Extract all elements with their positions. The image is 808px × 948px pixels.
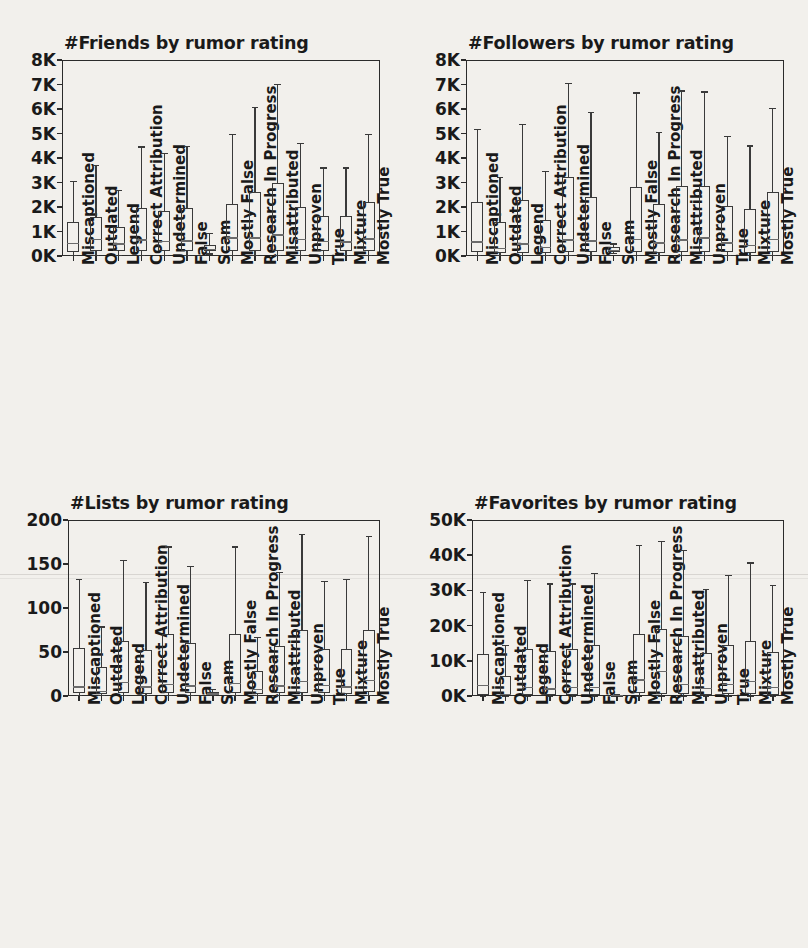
- y-tick-label: 50K: [410, 510, 466, 530]
- figure-grid: #Friends by rumor rating0K1K2K3K4K5K6K7K…: [0, 0, 808, 948]
- x-tick-mark: [505, 696, 506, 701]
- whisker-cap-upper: [770, 585, 777, 586]
- box-favorites-7: [633, 634, 645, 692]
- whisker-upper: [594, 573, 595, 645]
- whisker-upper: [483, 592, 484, 654]
- y-tick-label: 30K: [410, 580, 466, 600]
- x-tick-mark: [482, 696, 483, 701]
- whisker-upper: [772, 585, 773, 652]
- x-tick-mark: [683, 696, 684, 701]
- x-tick-mark: [772, 696, 773, 701]
- y-tick-mark: [467, 695, 472, 697]
- whisker-cap-upper: [524, 580, 531, 581]
- whisker-upper: [639, 545, 640, 635]
- whisker-cap-upper: [725, 575, 732, 576]
- whisker-cap-upper: [703, 589, 710, 590]
- whisker-cap-upper: [480, 592, 487, 593]
- median-line: [745, 681, 757, 682]
- box-favorites-12: [745, 641, 757, 694]
- whisker-upper: [705, 589, 706, 653]
- whisker-upper: [728, 575, 729, 646]
- x-tick-label-13: Mostly True: [779, 607, 797, 705]
- x-tick-mark: [594, 696, 595, 701]
- median-line: [522, 687, 534, 688]
- median-line: [700, 688, 712, 689]
- whisker-cap-upper: [747, 562, 754, 563]
- box-favorites-11: [722, 645, 734, 694]
- y-tick-mark: [467, 554, 472, 556]
- whisker-cap-upper: [569, 583, 576, 584]
- whisker-cap-upper: [636, 545, 643, 546]
- y-tick-mark: [467, 590, 472, 592]
- whisker-upper: [572, 583, 573, 649]
- chart-panel-favorites: #Favorites by rumor rating0K10K20K30K40K…: [0, 0, 808, 948]
- median-line: [722, 684, 734, 685]
- x-tick-mark: [616, 696, 617, 701]
- whisker-upper: [505, 645, 506, 676]
- whisker-upper: [527, 580, 528, 649]
- x-tick-mark: [705, 696, 706, 701]
- whisker-upper: [683, 550, 684, 636]
- x-tick-mark: [750, 696, 751, 701]
- whisker-cap-upper: [547, 583, 554, 584]
- whisker-cap-upper: [680, 550, 687, 551]
- whisker-upper: [750, 562, 751, 641]
- whisker-upper: [661, 541, 662, 629]
- y-tick-mark: [467, 625, 472, 627]
- chart-title-favorites: #Favorites by rumor rating: [474, 493, 737, 513]
- median-line: [656, 671, 668, 672]
- median-line: [767, 687, 779, 688]
- median-line: [477, 685, 489, 686]
- box-favorites-9: [678, 636, 690, 694]
- x-tick-mark: [572, 696, 573, 701]
- whisker-upper: [549, 583, 550, 651]
- y-tick-label: 10K: [410, 651, 466, 671]
- whisker-cap-upper: [658, 541, 665, 542]
- y-tick-mark: [467, 660, 472, 662]
- whisker-cap-upper: [502, 645, 509, 646]
- median-line: [544, 688, 556, 689]
- box-favorites-8: [656, 629, 668, 693]
- median-line: [678, 684, 690, 685]
- box-favorites-0: [477, 654, 489, 695]
- y-tick-label: 0K: [410, 686, 466, 706]
- median-line: [566, 687, 578, 688]
- median-line: [589, 687, 601, 688]
- x-tick-mark: [549, 696, 550, 701]
- median-line: [633, 679, 645, 680]
- y-tick-mark: [467, 519, 472, 521]
- whisker-cap-upper: [591, 573, 598, 574]
- x-tick-mark: [527, 696, 528, 701]
- y-tick-label: 40K: [410, 545, 466, 565]
- x-tick-mark: [728, 696, 729, 701]
- x-tick-mark: [638, 696, 639, 701]
- y-tick-label: 20K: [410, 616, 466, 636]
- box-favorites-1: [500, 676, 512, 695]
- x-tick-mark: [661, 696, 662, 701]
